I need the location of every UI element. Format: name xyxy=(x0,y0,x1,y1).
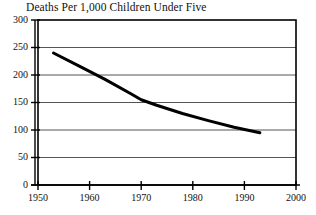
chart-container: Deaths Per 1,000 Children Under Five Sou… xyxy=(0,0,316,215)
y-tick-label-50: 50 xyxy=(0,151,28,162)
x-tick-label-1960: 1960 xyxy=(70,192,110,203)
y-tick-label-100: 100 xyxy=(0,124,28,135)
x-tick-label-1950: 1950 xyxy=(18,192,58,203)
x-tick-label-1990: 1990 xyxy=(224,192,264,203)
y-tick-label-0: 0 xyxy=(0,179,28,190)
x-tick-label-2000: 2000 xyxy=(276,192,316,203)
y-tick-label-200: 200 xyxy=(0,69,28,80)
x-tick-label-1980: 1980 xyxy=(173,192,213,203)
plot-area xyxy=(0,0,316,215)
y-tick-label-250: 250 xyxy=(0,41,28,52)
y-tick-label-300: 300 xyxy=(0,14,28,25)
y-tick-label-150: 150 xyxy=(0,96,28,107)
x-tick-label-1970: 1970 xyxy=(121,192,161,203)
